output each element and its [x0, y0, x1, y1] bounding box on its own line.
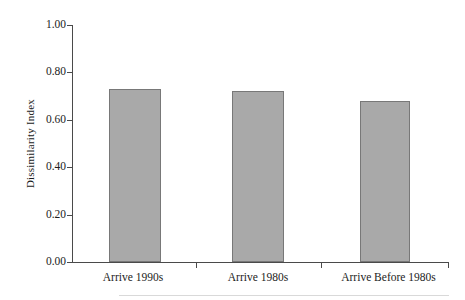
x-tick-mark: [448, 263, 449, 268]
y-axis-tick-labels: 1.00 0.80 0.60 0.40 0.20 0.00: [33, 0, 66, 300]
x-category-label: Arrive 1990s: [78, 270, 188, 284]
x-category-label: Arrive Before 1980s: [326, 270, 451, 284]
bar-chart: Dissimilarity Index 1.00 0.80 0.60 0.40 …: [0, 0, 465, 300]
x-axis-line: [72, 262, 449, 263]
y-tick-label: 0.80: [33, 66, 66, 78]
bar[interactable]: [360, 101, 410, 262]
page-edge-line: [119, 295, 449, 296]
plot-area: [72, 25, 449, 262]
y-tick-label: 1.00: [33, 19, 66, 31]
x-category-label: Arrive 1980s: [203, 270, 313, 284]
x-tick-mark: [321, 263, 322, 268]
bar[interactable]: [232, 91, 284, 262]
bar[interactable]: [109, 89, 161, 262]
y-tick-label: 0.00: [33, 256, 66, 268]
x-tick-mark: [196, 263, 197, 268]
y-tick-label: 0.60: [33, 114, 66, 126]
y-tick-label: 0.40: [33, 161, 66, 173]
y-tick-label: 0.20: [33, 209, 66, 221]
